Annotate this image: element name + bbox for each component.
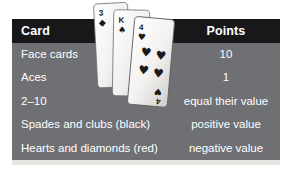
table-row: Hearts and diamonds (red) negative value bbox=[12, 137, 280, 161]
cell-points-value: equal their value bbox=[172, 90, 280, 114]
cell-card-category: Face cards bbox=[12, 43, 172, 67]
table-row: Spades and clubs (black) positive value bbox=[12, 113, 280, 137]
cell-card-category: Aces bbox=[12, 66, 172, 90]
table-row: Aces 1 bbox=[12, 66, 280, 90]
column-header-card: Card bbox=[12, 19, 172, 43]
cell-card-category: Hearts and diamonds (red) bbox=[12, 137, 172, 161]
table-base-strip bbox=[12, 160, 280, 165]
cell-card-category: Spades and clubs (black) bbox=[12, 113, 172, 137]
card-points-table: Card Points Face cards 10 Aces 1 2–10 eq… bbox=[12, 19, 280, 160]
table-figure: Card Points Face cards 10 Aces 1 2–10 eq… bbox=[0, 0, 292, 171]
table-header-row: Card Points bbox=[12, 19, 280, 43]
cell-points-value: 10 bbox=[172, 43, 280, 67]
cell-points-value: 1 bbox=[172, 66, 280, 90]
table-row: Face cards 10 bbox=[12, 43, 280, 67]
cell-points-value: negative value bbox=[172, 137, 280, 161]
column-header-points: Points bbox=[172, 19, 280, 43]
card-3-rank-index: 3 bbox=[99, 9, 104, 18]
cell-card-category: 2–10 bbox=[12, 90, 172, 114]
cell-points-value: positive value bbox=[172, 113, 280, 137]
table-row: 2–10 equal their value bbox=[12, 90, 280, 114]
